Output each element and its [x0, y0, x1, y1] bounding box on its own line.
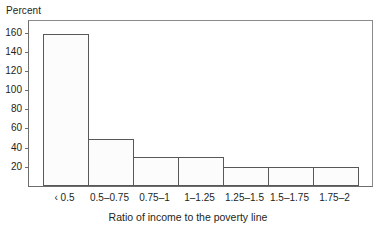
x-tick-label: 1.25–1.5	[222, 192, 267, 204]
bar	[88, 139, 134, 186]
y-tick-label: 60	[11, 121, 22, 134]
x-tick-label: 1.5–1.75	[267, 192, 312, 204]
y-axis-label: Percent	[6, 5, 41, 16]
y-tick-label: 100	[5, 83, 22, 96]
histogram-chart: Percent 20406080100120140160 ‹ 0.50.5–0.…	[0, 0, 376, 230]
bar	[178, 157, 224, 186]
bar	[43, 34, 89, 186]
x-tick-label: 0.5–0.75	[87, 192, 132, 204]
x-axis-label: Ratio of income to the poverty line	[0, 211, 376, 223]
bar	[133, 157, 179, 186]
bar-series	[29, 21, 372, 186]
x-tick-label: 1.75–2	[312, 192, 357, 204]
y-tick-label: 80	[11, 102, 22, 115]
x-tick-label: ‹ 0.5	[42, 192, 87, 204]
bar	[313, 167, 359, 186]
y-tick-label: 140	[5, 45, 22, 58]
y-tick-label: 160	[5, 26, 22, 39]
x-tick-label: 1–1.25	[177, 192, 222, 204]
y-tick-label: 40	[11, 141, 22, 154]
bar	[223, 167, 269, 186]
bar	[268, 167, 314, 186]
y-tick-label: 20	[11, 160, 22, 173]
plot-area: 20406080100120140160	[28, 20, 373, 187]
x-tick-label: 0.75–1	[132, 192, 177, 204]
y-tick-label: 120	[5, 64, 22, 77]
